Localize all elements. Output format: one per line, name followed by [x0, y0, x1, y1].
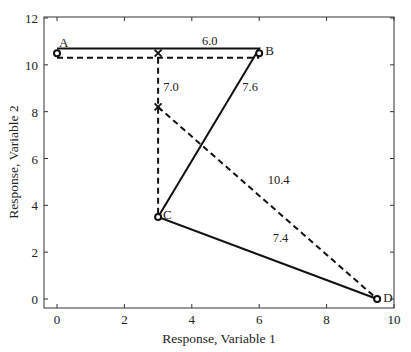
y-axis-label: Response, Variable 2 — [6, 105, 21, 218]
distance-label: 10.4 — [268, 173, 291, 187]
distance-label: 7.0 — [163, 80, 179, 94]
distance-label: 7.6 — [242, 80, 258, 94]
series-solid-path — [57, 48, 377, 299]
y-tick-label: 4 — [32, 198, 39, 213]
y-tick-label: 2 — [32, 245, 39, 260]
y-tick-label: 6 — [32, 152, 39, 167]
point-label-c: C — [163, 207, 172, 222]
plot-frame — [44, 17, 394, 308]
x-tick-label: 10 — [388, 312, 401, 327]
chart: 0246810024681012 ABCD 6.07.07.610.47.4 R… — [0, 0, 411, 352]
point-label-d: D — [383, 290, 392, 305]
series-dashed-diagonal — [158, 107, 377, 299]
x-tick-label: 0 — [54, 312, 61, 327]
point-c — [155, 214, 161, 220]
x-tick-label: 6 — [256, 312, 263, 327]
y-tick-label: 8 — [32, 105, 39, 120]
x-tick-label: 4 — [189, 312, 196, 327]
x-marker — [155, 50, 162, 57]
point-d — [374, 296, 380, 302]
point-label-a: A — [59, 35, 69, 50]
point-label-b: B — [265, 43, 274, 58]
x-axis-label: Response, Variable 1 — [162, 331, 275, 346]
point-a — [54, 50, 60, 56]
y-tick-label: 0 — [32, 292, 39, 307]
distance-label: 6.0 — [202, 34, 218, 48]
x-tick-label: 8 — [323, 312, 330, 327]
y-tick-label: 10 — [25, 58, 38, 73]
point-b — [256, 50, 262, 56]
distance-label: 7.4 — [273, 231, 289, 245]
y-tick-label: 12 — [25, 11, 38, 26]
x-tick-label: 2 — [121, 312, 128, 327]
